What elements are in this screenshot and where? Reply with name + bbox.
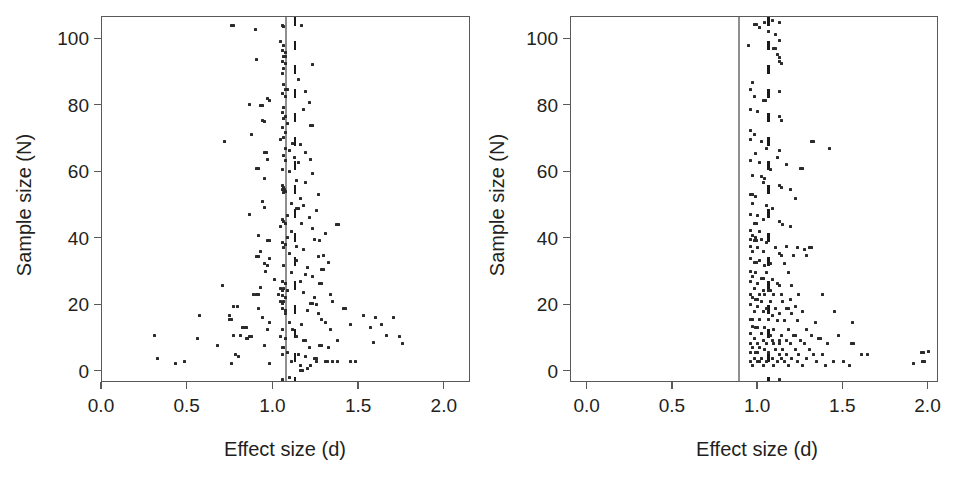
data-point: [749, 318, 754, 321]
data-point: [765, 342, 768, 345]
data-point: [318, 282, 323, 285]
data-point: [749, 213, 752, 216]
data-point: [767, 289, 772, 292]
data-point: [828, 147, 831, 150]
data-point: [284, 312, 287, 315]
y-tick-mark: [563, 104, 570, 105]
data-point: [751, 275, 754, 278]
data-point: [789, 225, 792, 228]
data-point: [763, 177, 766, 180]
data-point: [232, 334, 235, 337]
data-point: [797, 353, 800, 356]
data-point: [266, 328, 269, 331]
figure-root: Effect size (d) Sample size (N) 0.00.51.…: [0, 0, 959, 481]
data-point: [317, 193, 320, 196]
data-point: [767, 351, 770, 354]
data-point: [250, 133, 253, 136]
data-point: [789, 342, 792, 345]
data-point: [291, 142, 294, 145]
y-tick-mark: [94, 38, 101, 39]
data-point: [299, 197, 302, 200]
x-tick-label: 1.5: [345, 396, 371, 415]
data-point: [771, 339, 774, 342]
data-point: [286, 289, 289, 292]
data-point: [785, 307, 790, 310]
data-point: [749, 88, 752, 91]
x-tick-mark: [100, 382, 101, 389]
data-point: [753, 239, 758, 242]
data-point: [785, 339, 788, 342]
data-point: [778, 21, 781, 24]
data-point: [796, 360, 799, 363]
x-tick-mark: [443, 382, 444, 389]
data-point: [252, 293, 255, 296]
data-point: [282, 264, 285, 267]
data-point: [760, 332, 763, 335]
data-point: [780, 62, 783, 65]
data-point: [284, 337, 287, 340]
data-point: [286, 236, 289, 239]
data-point: [778, 284, 781, 287]
mean-effect-line-right: [767, 17, 770, 381]
data-point: [309, 302, 314, 305]
data-point: [778, 312, 781, 315]
data-point: [753, 222, 758, 225]
data-point: [921, 360, 926, 363]
data-point: [751, 325, 754, 328]
data-point: [851, 321, 854, 324]
data-point: [837, 334, 840, 337]
data-point: [812, 353, 815, 356]
data-point: [380, 323, 383, 326]
data-point: [787, 271, 790, 274]
data-point: [749, 342, 752, 345]
data-point: [284, 282, 287, 285]
data-point: [299, 364, 302, 367]
data-point: [753, 95, 756, 98]
data-point: [311, 227, 314, 230]
data-point: [324, 232, 327, 235]
data-point: [228, 318, 233, 321]
data-point: [282, 106, 285, 109]
data-point: [288, 252, 291, 255]
data-point: [778, 220, 781, 223]
y-tick-mark: [94, 171, 101, 172]
y-tick-label: 40: [39, 228, 89, 247]
x-tick-label: 0.0: [88, 396, 114, 415]
data-point: [756, 214, 759, 217]
data-point: [771, 207, 774, 210]
data-point: [232, 305, 235, 308]
data-point: [268, 362, 271, 365]
data-point: [291, 328, 294, 331]
data-point: [174, 362, 177, 365]
scatter-panel-left: Effect size (d) Sample size (N) 0.00.51.…: [0, 0, 480, 481]
plot-frame-left: [101, 16, 470, 382]
data-point: [753, 357, 756, 360]
data-point: [749, 280, 752, 283]
y-tick-label: 20: [508, 295, 558, 314]
data-point: [362, 314, 365, 317]
data-point: [790, 312, 793, 315]
data-point: [760, 175, 763, 178]
data-point: [776, 53, 779, 56]
data-point: [769, 168, 772, 171]
data-point: [749, 293, 752, 296]
y-tick-label: 80: [39, 95, 89, 114]
data-point: [781, 348, 784, 351]
x-tick-mark: [272, 382, 273, 389]
data-point: [281, 168, 284, 171]
data-point: [263, 344, 266, 347]
data-point: [288, 149, 291, 152]
data-point: [842, 360, 845, 363]
x-tick-label: 2.0: [431, 396, 457, 415]
data-point: [754, 195, 757, 198]
data-point: [756, 342, 759, 345]
x-tick-mark: [756, 382, 757, 389]
data-point: [760, 238, 763, 241]
data-point: [268, 257, 271, 260]
data-point: [751, 234, 754, 237]
data-point: [749, 332, 752, 335]
data-point: [751, 202, 754, 205]
data-point: [306, 367, 309, 370]
data-point: [299, 143, 302, 146]
data-point: [787, 328, 790, 331]
